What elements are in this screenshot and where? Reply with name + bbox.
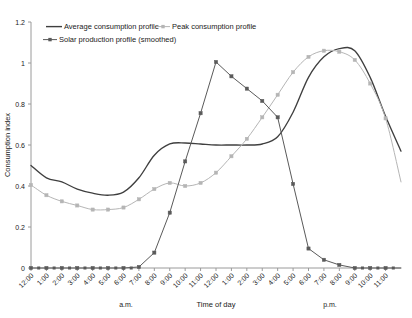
x-tick-label: 11:00: [372, 272, 389, 289]
series-marker: [91, 208, 94, 211]
series-marker: [114, 267, 117, 270]
series-marker: [369, 266, 372, 269]
y-axis-title: Consumption index: [3, 113, 12, 177]
x-tick-label: 8:00: [328, 272, 343, 287]
series-line: [31, 50, 401, 210]
series-marker: [99, 267, 102, 270]
series-marker: [37, 267, 40, 270]
series-marker: [276, 116, 279, 119]
series-marker: [214, 60, 217, 63]
series-marker: [307, 247, 310, 250]
series-marker: [384, 266, 387, 269]
series-marker: [261, 99, 264, 102]
legend-marker: [161, 25, 164, 28]
chart-container: 00.20.40.60.811.2Consumption index12:001…: [0, 0, 412, 318]
x-tick-label: 5:00: [282, 272, 297, 287]
series-marker: [261, 116, 264, 119]
series-marker: [53, 267, 56, 270]
series-marker: [91, 266, 94, 269]
series-marker: [361, 267, 364, 270]
x-tick-label: 3:00: [66, 272, 81, 287]
x-tick-label: 4:00: [267, 272, 282, 287]
series-marker: [137, 198, 140, 201]
x-tick-label: 4:00: [82, 272, 97, 287]
x-tick-label: 8:00: [143, 272, 158, 287]
series-marker: [353, 266, 356, 269]
series-marker: [199, 112, 202, 115]
legend-marker: [48, 38, 51, 41]
legend-label: Solar production profile (smoothed): [59, 35, 177, 44]
series-marker: [168, 181, 171, 184]
series-marker: [376, 267, 379, 270]
series-marker: [384, 117, 387, 120]
legend-label: Average consumption profile: [64, 22, 159, 31]
x-tick-label: 6:00: [298, 272, 313, 287]
series-marker: [353, 58, 356, 61]
series-marker: [60, 266, 63, 269]
x-tick-label: 6:00: [113, 272, 128, 287]
x-tick-label: 1:00: [221, 272, 236, 287]
series-marker: [29, 183, 32, 186]
series-marker: [153, 251, 156, 254]
series-marker: [338, 263, 341, 266]
series-2: [29, 49, 401, 211]
series-marker: [307, 55, 310, 58]
series-marker: [291, 71, 294, 74]
series-marker: [245, 137, 248, 140]
x-tick-label: 11:00: [187, 272, 204, 289]
x-tick-label: 2:00: [51, 272, 66, 287]
series-marker: [199, 181, 202, 184]
x-axis-ticks: 12:001:002:003:004:005:006:007:008:009:0…: [17, 268, 389, 289]
series-marker: [29, 266, 32, 269]
series-marker: [245, 87, 248, 90]
svg-text:1.2: 1.2: [15, 19, 25, 26]
x-tick-label: 7:00: [128, 272, 143, 287]
series-marker: [76, 204, 79, 207]
series-marker: [322, 49, 325, 52]
series-marker: [130, 267, 133, 270]
legend-item[interactable]: Peak consumption profile: [156, 22, 256, 31]
series-marker: [184, 160, 187, 163]
chart-legend: Average consumption profilePeak consumpt…: [43, 22, 256, 44]
series-marker: [60, 200, 63, 203]
legend-item[interactable]: Average consumption profile: [46, 22, 159, 31]
series-marker: [184, 184, 187, 187]
consumption-solar-line-chart: 00.20.40.60.811.2Consumption index12:001…: [0, 0, 412, 318]
legend-item[interactable]: Solar production profile (smoothed): [43, 35, 177, 44]
svg-text:0.2: 0.2: [15, 224, 25, 231]
series-marker: [392, 267, 395, 270]
x-tick-label: 5:00: [97, 272, 112, 287]
y-axis-ticks: 00.20.40.60.811.2: [15, 19, 31, 272]
x-tick-label: 2:00: [236, 272, 251, 287]
am-period-label: a.m.: [119, 301, 133, 308]
series-marker: [230, 155, 233, 158]
series-marker: [168, 211, 171, 214]
svg-text:0: 0: [21, 265, 25, 272]
x-tick-label: 10:00: [357, 272, 374, 289]
series-marker: [122, 266, 125, 269]
x-tick-label: 12:00: [17, 272, 34, 289]
series-marker: [68, 267, 71, 270]
series-marker: [338, 50, 341, 53]
x-tick-label: 3:00: [251, 272, 266, 287]
series-marker: [106, 208, 109, 211]
x-axis-title: Time of day: [197, 300, 236, 309]
series-marker: [45, 194, 48, 197]
series-marker: [214, 171, 217, 174]
svg-text:0.8: 0.8: [15, 101, 25, 108]
series-marker: [45, 266, 48, 269]
series-line: [31, 62, 401, 268]
svg-text:1: 1: [21, 60, 25, 67]
series-marker: [153, 187, 156, 190]
x-tick-label: 12:00: [202, 272, 219, 289]
svg-text:0.4: 0.4: [15, 183, 25, 190]
series-marker: [106, 266, 109, 269]
legend-label: Peak consumption profile: [172, 22, 256, 31]
series-marker: [276, 93, 279, 96]
series-marker: [76, 266, 79, 269]
series-marker: [291, 182, 294, 185]
x-tick-label: 1:00: [36, 272, 51, 287]
x-tick-label: 7:00: [313, 272, 328, 287]
pm-period-label: p.m.: [323, 301, 337, 309]
svg-text:0.6: 0.6: [15, 142, 25, 149]
